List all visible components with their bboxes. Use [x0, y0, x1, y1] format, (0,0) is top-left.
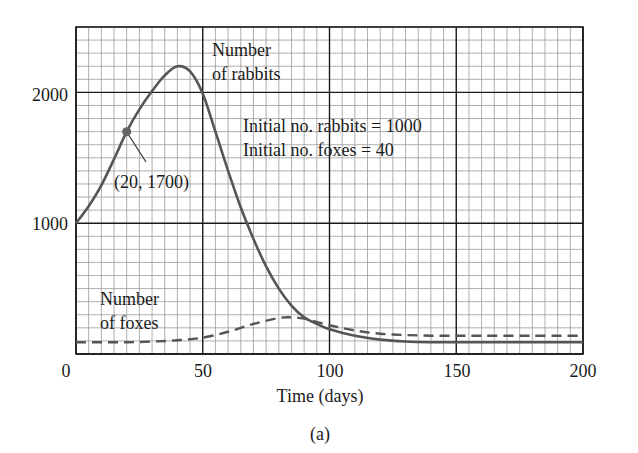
point-label: (20, 1700): [114, 172, 189, 193]
population-chart: Number of rabbits Initial no. rabbits = …: [0, 0, 638, 453]
x-tick-50: 50: [194, 361, 212, 381]
x-tick-0: 0: [62, 361, 71, 381]
x-axis-label: Time (days): [277, 386, 364, 407]
initial-foxes-label: Initial no. foxes = 40: [243, 140, 394, 160]
x-tick-100: 100: [317, 361, 344, 381]
x-tick-200: 200: [570, 361, 597, 381]
highlight-point: [122, 127, 131, 136]
y-tick-2000: 2000: [32, 85, 68, 105]
foxes-label-line2: of foxes: [100, 313, 158, 333]
initial-rabbits-label: Initial no. rabbits = 1000: [243, 116, 422, 136]
rabbits-label-line1: Number: [212, 40, 271, 60]
foxes-label-line1: Number: [100, 289, 159, 309]
y-tick-1000: 1000: [32, 214, 68, 234]
figure-caption: (a): [310, 424, 330, 445]
rabbits-label-line2: of rabbits: [212, 64, 280, 84]
x-tick-150: 150: [444, 361, 471, 381]
